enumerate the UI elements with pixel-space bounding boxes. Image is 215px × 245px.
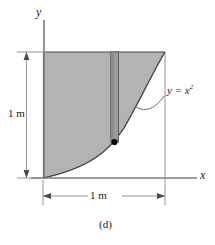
dim-arrow-down — [24, 170, 30, 178]
centroid-point — [111, 139, 117, 145]
y-axis-label: y — [36, 6, 41, 18]
horizontal-dimension-label: 1 m — [90, 190, 107, 201]
dim-arrow-right — [157, 193, 165, 199]
figure-drawing — [0, 0, 215, 245]
differential-strip-shadow — [111, 52, 114, 142]
figure-container: y x 1 m 1 m y = x2 (d) — [0, 0, 215, 245]
curve-equation-exponent: 2 — [190, 83, 194, 91]
figure-caption: (d) — [99, 219, 112, 230]
x-axis-label: x — [200, 169, 205, 181]
dim-arrow-up — [24, 52, 30, 60]
shaded-region — [43, 52, 165, 178]
vertical-dimension-label: 1 m — [8, 108, 25, 119]
curve-equation-base: y = x — [167, 84, 190, 96]
curve-equation-label: y = x2 — [167, 84, 193, 96]
dim-arrow-left — [43, 193, 51, 199]
